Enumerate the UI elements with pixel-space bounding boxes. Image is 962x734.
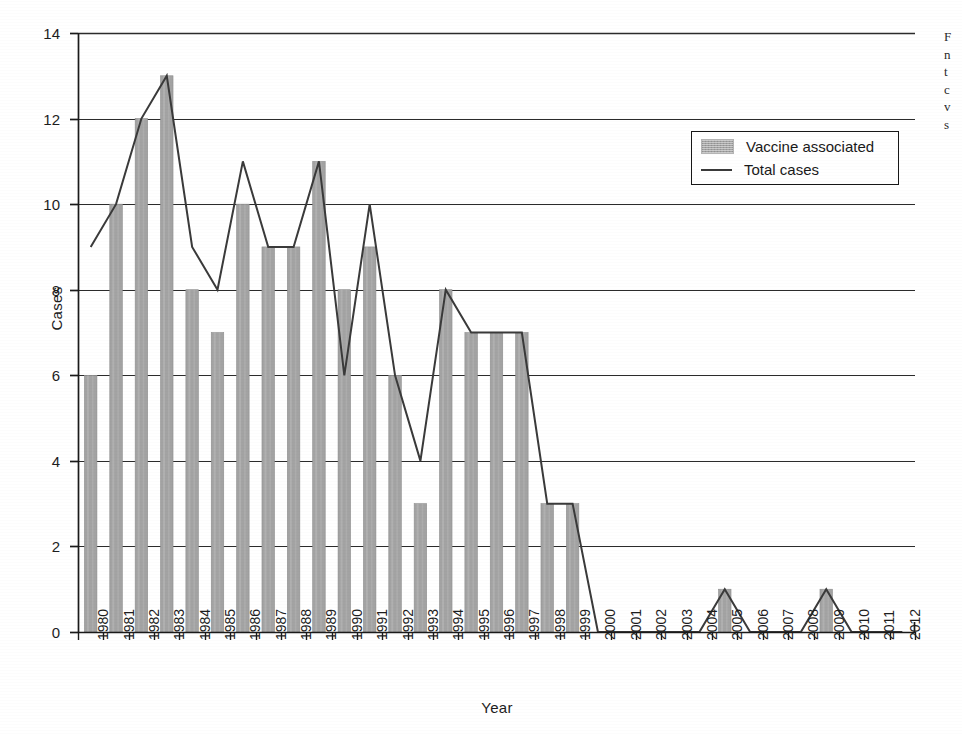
bar-texture-1995 <box>467 333 469 633</box>
x-tick-label-1984: 1984 <box>198 584 212 640</box>
bar-1985 <box>211 333 224 633</box>
legend-bar-swatch-icon <box>701 139 734 154</box>
x-tick-label-2001: 2001 <box>629 584 643 640</box>
x-tick-label-2002: 2002 <box>654 584 668 640</box>
x-tick-label-1995: 1995 <box>477 584 491 640</box>
bar-texture2-2009 <box>827 589 829 632</box>
bar-texture2-1983 <box>168 76 170 632</box>
bar-texture-1989 <box>315 161 317 632</box>
x-tick-label-1980: 1980 <box>96 584 110 640</box>
bar-1988 <box>287 247 300 632</box>
bar-texture2-1987 <box>269 247 271 632</box>
bar-texture-1986 <box>239 204 241 632</box>
bar-texture2-1980 <box>92 375 94 632</box>
bar-texture2-1982 <box>143 119 145 632</box>
caption-fragment-line-1: n <box>944 46 962 64</box>
bar-texture2-1998 <box>548 504 550 632</box>
bar-texture2-1993 <box>422 504 424 632</box>
bar-texture2-1990 <box>346 290 348 632</box>
chart-legend: Vaccine associated Total cases <box>691 131 899 185</box>
bar-1981 <box>110 204 123 632</box>
legend-item-total-cases: Total cases <box>701 158 819 180</box>
bar-texture2-2005 <box>726 589 728 632</box>
bar-1989 <box>313 161 326 632</box>
bar-1982 <box>135 119 148 632</box>
bar-1986 <box>237 204 250 632</box>
bar-texture2-1984 <box>193 290 195 632</box>
x-tick-label-2012: 2012 <box>908 584 922 640</box>
x-tick-label-2010: 2010 <box>857 584 871 640</box>
bar-texture-1992 <box>391 375 393 632</box>
bar-texture-1993 <box>417 504 419 632</box>
bar-texture2-1994 <box>447 290 449 632</box>
bar-texture2-1995 <box>472 333 474 633</box>
y-tick-label-0: 0 <box>14 625 60 640</box>
x-tick-label-1991: 1991 <box>375 584 389 640</box>
bar-1994 <box>440 290 453 632</box>
bar-1987 <box>262 247 275 632</box>
x-tick-label-1997: 1997 <box>527 584 541 640</box>
x-tick-label-2008: 2008 <box>806 584 820 640</box>
x-tick-label-2004: 2004 <box>705 584 719 640</box>
bar-texture-1996 <box>493 333 495 633</box>
y-tick-label-6: 6 <box>14 368 60 383</box>
x-tick-label-1993: 1993 <box>426 584 440 640</box>
x-tick-label-1983: 1983 <box>172 584 186 640</box>
legend-label-vaccine-associated: Vaccine associated <box>746 139 874 154</box>
bar-texture-1982 <box>138 119 140 632</box>
bar-texture-1984 <box>188 290 190 632</box>
bar-1996 <box>490 333 503 633</box>
bar-1992 <box>389 375 402 632</box>
figure-container: 02468101214 1980198119821983198419851986… <box>0 0 962 734</box>
bar-texture2-1988 <box>295 247 297 632</box>
x-tick-label-2003: 2003 <box>680 584 694 640</box>
x-tick-label-1994: 1994 <box>451 584 465 640</box>
legend-label-total-cases: Total cases <box>744 162 819 177</box>
clipped-caption-fragment: Fntcvspc <box>944 28 962 140</box>
x-tick-label-2007: 2007 <box>781 584 795 640</box>
x-tick-label-1987: 1987 <box>274 584 288 640</box>
legend-item-vaccine-associated: Vaccine associated <box>701 135 874 157</box>
x-axis-title: Year <box>78 699 916 716</box>
x-tick-label-2009: 2009 <box>832 584 846 640</box>
bar-texture-1998 <box>543 504 545 632</box>
x-tick-label-1988: 1988 <box>299 584 313 640</box>
bar-texture-1985 <box>214 333 216 633</box>
bar-texture-1980 <box>87 375 89 632</box>
x-tick-label-1982: 1982 <box>147 584 161 640</box>
x-tick-label-2005: 2005 <box>730 584 744 640</box>
bar-1991 <box>363 247 376 632</box>
bar-1983 <box>161 76 174 632</box>
x-tick-label-2011: 2011 <box>882 584 896 640</box>
y-axis-ticks <box>70 34 78 633</box>
caption-fragment-line-0: F <box>944 28 962 46</box>
x-tick-label-1986: 1986 <box>248 584 262 640</box>
caption-fragment-line-3: c <box>944 81 962 99</box>
bar-texture-1987 <box>264 247 266 632</box>
bar-texture-1988 <box>290 247 292 632</box>
bar-texture-1991 <box>366 247 368 632</box>
bar-texture2-1999 <box>574 504 576 632</box>
x-tick-label-2000: 2000 <box>603 584 617 640</box>
x-tick-label-1981: 1981 <box>122 584 136 640</box>
x-tick-label-1985: 1985 <box>223 584 237 640</box>
bar-texture-1994 <box>442 290 444 632</box>
legend-line-swatch-icon <box>701 163 732 176</box>
bar-1984 <box>186 290 199 632</box>
y-tick-label-14: 14 <box>14 26 60 41</box>
x-tick-label-1990: 1990 <box>350 584 364 640</box>
caption-fragment-line-5: s <box>944 116 962 134</box>
bar-texture2-1997 <box>523 333 525 633</box>
bar-texture2-1985 <box>219 333 221 633</box>
bar-texture2-1996 <box>498 333 500 633</box>
y-axis-title: Cases <box>48 249 65 369</box>
bar-texture-1999 <box>569 504 571 632</box>
y-tick-label-2: 2 <box>14 539 60 554</box>
x-tick-label-2006: 2006 <box>756 584 770 640</box>
caption-fragment-line-2: t <box>944 63 962 81</box>
x-tick-label-1989: 1989 <box>324 584 338 640</box>
x-tick-label-1999: 1999 <box>578 584 592 640</box>
bar-texture2-1986 <box>244 204 246 632</box>
x-tick-label-1996: 1996 <box>502 584 516 640</box>
x-tick-label-1998: 1998 <box>553 584 567 640</box>
